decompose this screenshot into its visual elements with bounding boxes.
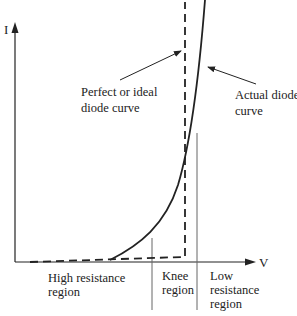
low-resistance-region-label-line-1: Low xyxy=(210,269,233,283)
actual-curve-label-line-1: Actual diode xyxy=(235,88,297,102)
actual-curve-label-line-2: curve xyxy=(235,104,263,118)
y-axis-label: I xyxy=(4,22,8,37)
actual-curve-leader-arrow xyxy=(208,67,256,84)
ideal-curve-leader-arrow xyxy=(120,51,181,80)
x-axis-label: V xyxy=(259,255,269,270)
x-axis-arrow-icon xyxy=(245,259,256,266)
ideal-curve-label-line-2: diode curve xyxy=(81,101,140,115)
low-resistance-region-label-line-3: region xyxy=(210,297,243,311)
diode-iv-diagram: I V Perfect or ideal diode curve Actual … xyxy=(0,0,297,316)
high-resistance-region-label-line-1: High resistance xyxy=(48,271,126,285)
ideal-curve-label-line-1: Perfect or ideal xyxy=(81,85,158,99)
ideal-diode-curve xyxy=(30,2,185,262)
low-resistance-region-label-line-2: resistance xyxy=(210,283,260,297)
knee-region-label-line-1: Knee xyxy=(162,269,189,283)
actual-diode-curve xyxy=(110,0,205,260)
y-axis-arrow-icon xyxy=(12,22,19,33)
knee-region-label-line-2: region xyxy=(162,283,195,297)
high-resistance-region-label-line-2: region xyxy=(48,285,81,299)
